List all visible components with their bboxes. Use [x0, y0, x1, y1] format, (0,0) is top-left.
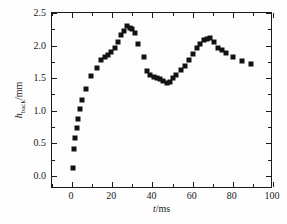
y-tick	[268, 62, 271, 63]
x-tick	[193, 182, 194, 187]
x-axis-title: t/ms	[51, 203, 272, 214]
y-tick	[266, 78, 271, 79]
x-tick-label: 0	[69, 190, 74, 201]
data-point	[230, 55, 235, 60]
x-tick	[273, 13, 274, 18]
data-point	[183, 64, 188, 69]
figure-scatter-plot: 020406080100 0.00.51.01.52.02.5 t/ms hba…	[0, 0, 287, 224]
x-tick	[132, 184, 133, 187]
data-point	[109, 50, 114, 55]
y-tick	[52, 62, 55, 63]
data-point	[80, 97, 85, 102]
x-tick	[72, 182, 73, 187]
x-tick-label: 100	[265, 190, 280, 201]
y-axis-unit: /mm	[13, 82, 24, 100]
plot-frame	[51, 12, 272, 188]
y-tick-label: 2.0	[34, 39, 47, 50]
data-point	[239, 59, 244, 64]
x-tick	[132, 13, 133, 16]
data-point	[88, 74, 93, 79]
y-tick	[268, 94, 271, 95]
y-tick	[52, 160, 55, 161]
y-tick	[52, 143, 57, 144]
y-tick	[52, 29, 55, 30]
y-tick	[52, 176, 57, 177]
x-tick	[233, 13, 234, 18]
data-point	[73, 136, 78, 141]
data-point	[136, 42, 141, 47]
data-point	[121, 28, 126, 33]
x-tick	[253, 184, 254, 187]
y-axis-title: hback/mm	[13, 82, 27, 119]
y-axis-subscript: back	[19, 100, 27, 113]
data-point	[174, 72, 179, 77]
y-tick	[268, 127, 271, 128]
data-points-layer	[52, 13, 271, 187]
y-tick	[266, 143, 271, 144]
y-tick	[266, 111, 271, 112]
data-point	[72, 146, 77, 151]
data-point	[223, 50, 228, 55]
y-tick-label: 0.5	[34, 137, 47, 148]
x-tick	[72, 13, 73, 18]
data-point	[248, 61, 253, 66]
y-tick	[52, 78, 57, 79]
y-tick	[266, 176, 271, 177]
x-tick	[273, 182, 274, 187]
data-point	[119, 33, 124, 38]
x-tick	[92, 184, 93, 187]
data-point	[113, 45, 118, 50]
data-point	[186, 57, 191, 62]
x-tick	[112, 182, 113, 187]
x-tick	[213, 184, 214, 187]
x-tick	[173, 184, 174, 187]
x-tick	[253, 13, 254, 16]
x-tick	[233, 182, 234, 187]
y-tick	[52, 13, 57, 14]
x-tick	[152, 13, 153, 18]
y-tick-label: 2.5	[34, 7, 47, 18]
y-tick-label: 0.0	[34, 169, 47, 180]
y-tick-label: 1.0	[34, 104, 47, 115]
data-point	[76, 116, 81, 121]
data-point	[71, 166, 76, 171]
y-tick	[52, 127, 55, 128]
y-tick-label: 1.5	[34, 72, 47, 83]
data-point	[77, 107, 82, 112]
x-tick	[52, 184, 53, 187]
data-point	[211, 39, 216, 44]
y-tick	[52, 111, 57, 112]
y-axis-symbol: h	[13, 113, 24, 118]
x-tick	[193, 13, 194, 18]
x-tick	[173, 13, 174, 16]
x-tick-label: 20	[106, 190, 116, 201]
data-point	[141, 54, 146, 59]
x-tick-label: 60	[187, 190, 197, 201]
x-tick	[112, 13, 113, 18]
data-point	[84, 87, 89, 92]
x-tick-label: 80	[227, 190, 237, 201]
y-tick	[266, 13, 271, 14]
x-axis-unit: /ms	[156, 203, 170, 214]
y-tick	[268, 160, 271, 161]
x-tick	[213, 13, 214, 16]
x-tick	[152, 182, 153, 187]
data-point	[74, 125, 79, 130]
y-tick	[266, 46, 271, 47]
y-tick	[268, 29, 271, 30]
data-point	[190, 52, 195, 57]
data-point	[95, 66, 100, 71]
x-tick-label: 40	[146, 190, 156, 201]
data-point	[116, 40, 121, 45]
x-tick	[92, 13, 93, 16]
y-tick	[52, 94, 55, 95]
data-point	[133, 31, 138, 36]
y-tick	[52, 46, 57, 47]
